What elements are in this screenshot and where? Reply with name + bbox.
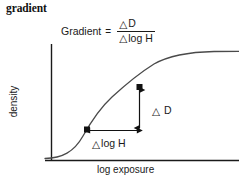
y-axis-label: density: [8, 72, 19, 132]
characteristic-curve: [45, 51, 239, 158]
delta-d-label: △ D: [152, 104, 172, 117]
delta-d-term: D: [164, 104, 172, 116]
delta-logh-term: log H: [101, 137, 126, 149]
x-axis-label: log exposure: [97, 164, 154, 175]
delta-logh-label: △log H: [92, 137, 126, 150]
delta-triangle-icon: △: [152, 105, 160, 117]
figure-gradient: gradient Gradient = △D △log H: [0, 0, 239, 175]
curve-point-marker-upper: [137, 84, 143, 90]
delta-triangle-icon: △: [92, 138, 100, 150]
curve-point-marker-lower: [84, 127, 90, 133]
